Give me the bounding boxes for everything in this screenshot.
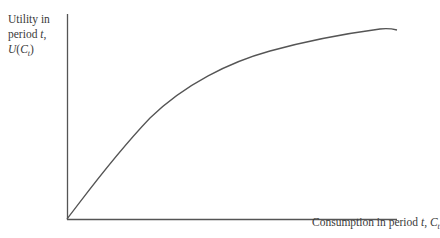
y-label-line-3: U(Ct) [8,42,50,61]
utility-curve [67,29,397,219]
y-axis-label: Utility in period t, U(Ct) [8,12,50,61]
y-label-line-1: Utility in [8,12,50,27]
x-axis-label: Consumption in period t, Ct [312,216,440,231]
y-label-line-2: period t, [8,27,50,42]
